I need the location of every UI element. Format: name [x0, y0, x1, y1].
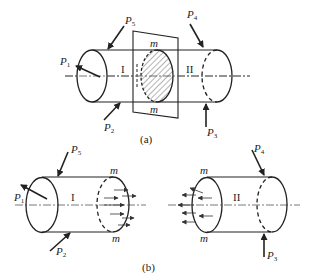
section-label-m-top-b-left: m [110, 165, 118, 176]
label-p5-a: P5 [125, 15, 135, 28]
section-label-m-bottom-b-left: m [112, 233, 120, 244]
label-p4-a: P4 [187, 9, 197, 22]
figure-b-left-part [15, 152, 146, 251]
label-p3-b: P3 [267, 250, 277, 263]
force-arrow-p5 [108, 26, 124, 49]
label-p1-a: P1 [60, 56, 70, 69]
force-arrow-p2 [104, 103, 120, 120]
right-end-hidden [257, 177, 272, 232]
part-label-i-a: I [121, 64, 125, 75]
label-p2-b: P2 [56, 246, 66, 259]
label-p3-a: P3 [207, 127, 217, 140]
part-label-i-b: I [71, 192, 75, 203]
section-label-m-bottom-a: m [150, 104, 158, 115]
label-p2-a: P2 [104, 122, 114, 135]
force-arrow-p4 [190, 24, 203, 47]
section-label-m-top-b-right: m [200, 165, 208, 176]
caption-a: (a) [140, 134, 152, 145]
label-p1-b: P1 [14, 192, 24, 205]
caption-b: (b) [142, 262, 155, 273]
section-face-back [97, 177, 113, 232]
part-label-ii-a: II [186, 64, 193, 75]
force-arrow-p5 [58, 152, 68, 176]
label-p5-b: P5 [71, 144, 81, 157]
part-label-ii-b: II [233, 192, 240, 203]
force-arrow-p1 [21, 185, 47, 199]
section-face-front [113, 177, 129, 232]
internal-force-section-diagram: P1 P2 P3 P4 P5 m m I II (a) P1 P2 P5 m m… [0, 0, 309, 275]
figure-b-right-part [168, 150, 300, 257]
section-label-m-bottom-b-right: m [200, 233, 208, 244]
label-p4-b: P4 [254, 143, 264, 156]
section-label-m-top-a: m [150, 38, 158, 49]
internal-force-arrows [104, 190, 136, 225]
right-end-face [272, 177, 287, 232]
